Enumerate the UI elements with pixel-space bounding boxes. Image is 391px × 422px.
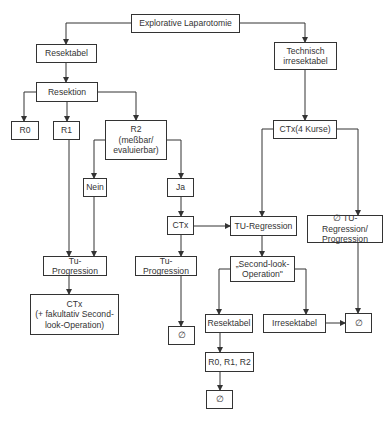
node-tu-progression-mid: Tu-Progression bbox=[135, 256, 197, 276]
node-no-tu-regression-progression: ∅ TU-Regression/ Progression bbox=[307, 215, 383, 243]
node-r1: R1 bbox=[53, 121, 80, 140]
node-empty-bottom: ∅ bbox=[206, 390, 233, 409]
node-tu-progression-left: Tu-Progression bbox=[43, 256, 107, 276]
node-resektabel: Resektabel bbox=[36, 44, 97, 63]
node-r0: R0 bbox=[11, 121, 39, 140]
node-explorative-laparotomie: Explorative Laparotomie bbox=[131, 14, 240, 33]
node-nein: Nein bbox=[83, 178, 107, 197]
node-ja: Ja bbox=[167, 178, 194, 197]
node-tu-regression: TU-Regression bbox=[230, 216, 297, 236]
node-empty-mid: ∅ bbox=[168, 326, 195, 345]
node-r2: R2 (meßbar/ evaluierbar) bbox=[105, 120, 167, 160]
node-second-look-operation: „Second-look- Operation" bbox=[230, 256, 295, 282]
node-resektion: Resektion bbox=[36, 82, 98, 102]
node-ctx-fakultativ-second-look: CTx (+ fakultativ Second- look-Operation… bbox=[30, 294, 119, 335]
node-r0-r1-r2: R0, R1, R2 bbox=[205, 352, 254, 372]
node-irresektabel: Irresektabel bbox=[263, 314, 326, 333]
node-technisch-irresektabel: Technisch irresektabel bbox=[274, 42, 337, 70]
node-empty-right: ∅ bbox=[345, 313, 372, 333]
node-resektabel-bottom: Resektabel bbox=[205, 314, 253, 333]
node-ctx: CTx bbox=[167, 216, 194, 235]
node-ctx-4-kurse: CTx(4 Kurse) bbox=[273, 120, 337, 139]
